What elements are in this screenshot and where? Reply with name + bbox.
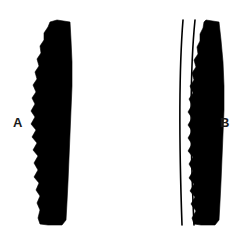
- figure-canvas: A B: [0, 0, 250, 238]
- specimen-a-label: A: [13, 116, 23, 129]
- specimen-b-label: B: [220, 116, 230, 129]
- specimen-illustration: [0, 0, 250, 238]
